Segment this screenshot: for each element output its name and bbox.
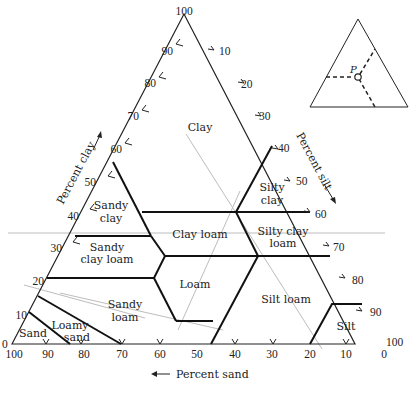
apex-label: 100 (175, 5, 193, 17)
arrow-up-icon (97, 131, 102, 138)
svg-text:40: 40 (229, 348, 241, 360)
svg-text:70: 70 (116, 348, 128, 360)
guide-lines (8, 134, 385, 349)
svg-text:50: 50 (85, 176, 97, 188)
arrow-left-icon (151, 371, 157, 377)
svg-text:Percent clay: Percent clay (54, 139, 98, 207)
svg-text:10: 10 (219, 45, 231, 57)
percent-clay-axis-label: Percent clay (54, 131, 102, 206)
svg-text:90: 90 (370, 306, 382, 318)
svg-text:50: 50 (191, 348, 203, 360)
region-silty-clay-2: clay (261, 194, 284, 207)
region-sandy-loam-2: loam (111, 311, 139, 324)
sand-tick-labels: 100 90 80 70 60 50 40 30 20 10 0 (5, 348, 387, 360)
region-sandy-clay-2: clay (100, 212, 123, 225)
svg-text:100: 100 (386, 336, 404, 348)
svg-text:20: 20 (304, 348, 316, 360)
region-silty-clay-1: Silty (259, 181, 285, 194)
svg-text:30: 30 (266, 348, 278, 360)
svg-text:Percent sand: Percent sand (176, 368, 249, 381)
soil-texture-diagram: 100 0 10 20 30 40 50 60 70 80 90 10 20 3… (0, 0, 410, 394)
region-silt-loam: Silt loam (261, 293, 311, 306)
region-clay: Clay (188, 121, 213, 134)
region-clay-loam: Clay loam (172, 228, 228, 241)
arrow-down-icon (330, 197, 336, 204)
silt-tick-labels: 10 20 30 40 50 60 70 80 90 100 (219, 45, 404, 348)
svg-text:10: 10 (16, 309, 28, 321)
region-sand: Sand (19, 327, 47, 340)
svg-text:70: 70 (333, 241, 345, 253)
point-p-label: P (349, 64, 357, 75)
svg-text:50: 50 (296, 175, 308, 187)
svg-text:80: 80 (78, 348, 90, 360)
region-sandy-clay-1: Sandy (94, 199, 129, 212)
svg-text:30: 30 (51, 242, 63, 254)
svg-text:40: 40 (278, 142, 290, 154)
inset-triangle: P (310, 19, 408, 107)
clay-tick-labels: 0 10 20 30 40 50 60 70 80 90 (2, 45, 173, 350)
percent-sand-axis-label: Percent sand (151, 368, 249, 381)
region-silty-clay-loam-2: loam (269, 237, 297, 250)
region-sandy-clay-loam-2: clay loam (80, 253, 134, 266)
svg-text:100: 100 (5, 348, 23, 360)
svg-text:40: 40 (68, 210, 80, 222)
silt-ticks (208, 46, 362, 311)
region-silt: Silt (337, 320, 357, 333)
svg-text:30: 30 (259, 110, 271, 122)
svg-text:20: 20 (241, 78, 253, 90)
svg-text:10: 10 (340, 348, 352, 360)
svg-text:60: 60 (111, 143, 123, 155)
svg-text:70: 70 (128, 110, 140, 122)
svg-text:60: 60 (154, 348, 166, 360)
svg-text:90: 90 (162, 45, 174, 57)
svg-text:90: 90 (42, 348, 54, 360)
region-loam: Loam (180, 278, 211, 291)
svg-text:60: 60 (315, 208, 327, 220)
region-loamy-sand-2: sand (64, 331, 90, 344)
svg-text:80: 80 (352, 274, 364, 286)
region-sandy-loam-1: Sandy (108, 298, 143, 311)
percent-silt-axis-label: Percent silt (293, 130, 336, 204)
svg-text:20: 20 (33, 275, 45, 287)
svg-text:80: 80 (145, 77, 157, 89)
svg-text:0: 0 (381, 348, 387, 360)
